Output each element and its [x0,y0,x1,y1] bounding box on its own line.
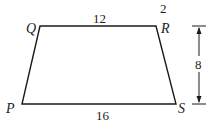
bottom-length-label: 16 [96,108,110,123]
trapezoid-diagram: 2 Q R P S 12 16 8 [0,0,216,123]
vertex-label-s: S [178,101,185,116]
vertex-label-r: R [160,21,170,36]
arrow-up-icon [197,27,202,34]
height-label: 8 [195,57,202,72]
vertex-label-p: P [5,101,15,116]
stray-number: 2 [160,1,167,16]
trapezoid-shape [22,26,176,104]
vertex-label-q: Q [26,21,36,36]
arrow-down-icon [197,96,202,103]
top-length-label: 12 [93,11,106,26]
